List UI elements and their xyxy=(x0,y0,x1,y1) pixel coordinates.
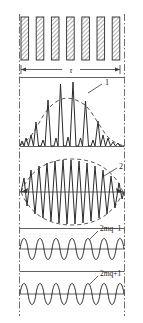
grating-panel: τ xyxy=(21,17,120,75)
leader-line-2mq-minus-1 xyxy=(89,231,98,240)
pattern-2-panel: 2 xyxy=(20,159,125,225)
leader-line-1 xyxy=(88,84,102,93)
harmonic-plus-panel: 2mq+1 xyxy=(20,269,125,305)
leader-line-2mq-plus-1 xyxy=(89,276,98,285)
waveform-1 xyxy=(20,82,124,146)
figure-canvas: τ 1 xyxy=(0,0,143,323)
harmonic-minus-label: 2mq−1 xyxy=(100,224,122,233)
harmonic-plus-label: 2mq+1 xyxy=(100,269,122,278)
tau-dimension-label: τ xyxy=(70,66,74,75)
pattern-1-panel: 1 xyxy=(20,78,125,147)
harmonic-minus-panel: 2mq−1 xyxy=(20,224,125,260)
physics-waveform-figure: τ 1 xyxy=(0,0,143,323)
grating-bars xyxy=(21,17,120,60)
pattern-2-label: 2 xyxy=(119,162,123,171)
pattern-1-label: 1 xyxy=(105,78,109,87)
